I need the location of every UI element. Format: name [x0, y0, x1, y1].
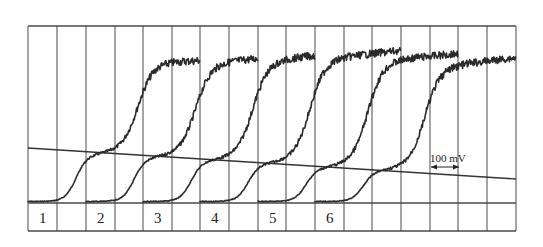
curve-traces — [28, 48, 515, 202]
curve-1-trace — [28, 58, 200, 202]
curve-label-5: 5 — [269, 210, 277, 226]
curve-label-4: 4 — [211, 210, 219, 226]
scale-bar-arrow-left-icon — [431, 165, 437, 170]
curve-label-3: 3 — [154, 210, 162, 226]
curve-labels: 123456 — [39, 210, 334, 226]
curve-label-2: 2 — [97, 210, 105, 226]
curve-label-1: 1 — [39, 210, 47, 226]
curve-6-trace — [315, 56, 515, 202]
curve-4-trace — [200, 48, 400, 202]
scale-bar: 100 mV — [430, 152, 466, 170]
scale-bar-label: 100 mV — [430, 152, 466, 164]
curve-5-trace — [258, 51, 458, 202]
polarogram-chart: 123456 100 mV — [0, 0, 543, 247]
curve-label-6: 6 — [326, 210, 334, 226]
